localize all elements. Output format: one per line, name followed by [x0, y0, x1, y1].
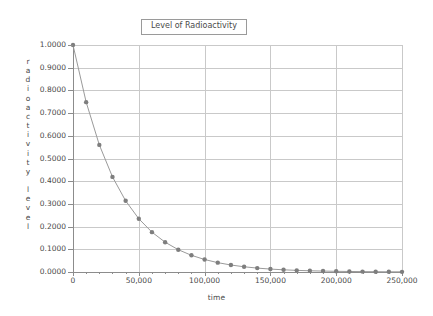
y-axis-tick — [68, 90, 73, 91]
data-point — [321, 269, 325, 273]
data-point — [163, 240, 167, 244]
data-point — [334, 269, 338, 273]
data-point — [150, 230, 154, 234]
data-point — [202, 257, 206, 261]
data-point — [189, 253, 193, 257]
data-series — [0, 0, 433, 316]
data-point — [255, 266, 259, 270]
data-point — [137, 217, 141, 221]
data-point — [295, 268, 299, 272]
data-point — [360, 269, 364, 273]
y-axis-tick — [68, 272, 73, 273]
series-line — [73, 45, 402, 272]
y-axis-tick — [68, 136, 73, 137]
data-point — [281, 268, 285, 272]
radioactivity-decay-chart: Level of Radioactivity 0.00000.10000.200… — [0, 0, 433, 316]
data-point — [347, 269, 351, 273]
data-point — [229, 263, 233, 267]
y-axis-tick — [68, 227, 73, 228]
data-point — [373, 270, 377, 274]
data-point — [308, 269, 312, 273]
data-point — [110, 175, 114, 179]
data-point — [242, 265, 246, 269]
data-point — [84, 100, 88, 104]
y-axis-tick — [68, 181, 73, 182]
y-axis-tick — [68, 45, 73, 46]
data-point — [216, 260, 220, 264]
y-axis-tick — [68, 113, 73, 114]
y-axis-tick — [68, 68, 73, 69]
data-point — [176, 247, 180, 251]
data-point — [123, 199, 127, 203]
data-point — [387, 270, 391, 274]
y-axis-tick — [68, 249, 73, 250]
data-point — [97, 143, 101, 147]
y-axis-tick — [68, 204, 73, 205]
y-axis-tick — [68, 159, 73, 160]
data-point — [400, 270, 404, 274]
data-point — [268, 267, 272, 271]
